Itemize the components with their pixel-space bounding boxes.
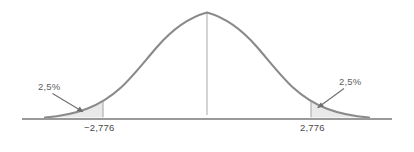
- left-tail-percent-label: 2,5%: [38, 81, 60, 92]
- right-tail-percent-label: 2,5%: [339, 76, 361, 87]
- left-annotation-leader-arrow: [53, 94, 84, 113]
- right-annotation-leader-arrow: [317, 89, 344, 109]
- left-tail-shaded-region: [45, 102, 103, 118]
- distribution-figure: 2,5% 2,5% −2,776 2,776: [0, 0, 414, 152]
- axis-tick-label-negative: −2,776: [84, 122, 115, 133]
- axis-tick-label-positive: 2,776: [300, 122, 325, 133]
